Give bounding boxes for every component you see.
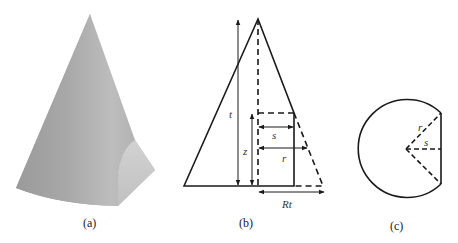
label-Rt: Rt [281, 198, 293, 210]
label-s: s [272, 129, 276, 141]
label-c-s: s [424, 136, 428, 148]
label-c-r: r [418, 121, 423, 133]
caption-a: (a) [83, 216, 96, 230]
circle-arc [358, 99, 441, 197]
caption-b: (b) [239, 216, 253, 230]
caption-c: (c) [390, 219, 403, 233]
figure-canvas: (a) t z s r Rt (b) r s (c) [0, 0, 458, 243]
panel-c-section [358, 99, 441, 197]
label-r: r [282, 152, 287, 164]
label-t: t [229, 108, 233, 120]
radius-lower-dashed [406, 149, 441, 184]
panel-b-section [184, 19, 323, 186]
panel-b-dimensions [238, 20, 324, 192]
triangle-solid [184, 19, 294, 186]
label-z: z [242, 145, 248, 157]
panel-a-cone [16, 14, 155, 206]
missing-part-dashed [294, 113, 323, 186]
cone-main-face [16, 14, 135, 206]
